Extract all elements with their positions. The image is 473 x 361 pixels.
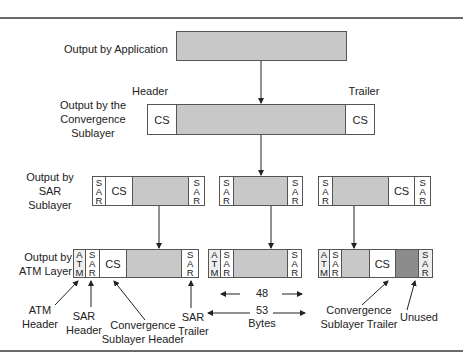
payload-cell [127, 250, 182, 277]
row-label-line: Convergence [48, 112, 138, 126]
atm-header-cell: ATM [319, 250, 330, 277]
cs-header-label: Header [132, 85, 168, 98]
sar-trailer-cell: SAR [288, 250, 301, 277]
sar-trailer-cell: SAR [182, 250, 198, 277]
annotation-cs-header: Convergence Sublayer Header [100, 318, 186, 346]
row-label-sar: Output by SAR Sublayer [18, 170, 82, 212]
sar-header-cell: SAR [220, 177, 234, 205]
payload-cell [342, 250, 370, 277]
sar-header-cell: SAR [93, 177, 106, 205]
sar-header-cell: SAR [319, 177, 333, 205]
atm-cell-last: ATM SAR CS SAR [318, 249, 433, 278]
atm-header-cell: ATM [74, 250, 86, 277]
payload-cell [333, 177, 389, 205]
cs-trailer-cell: CS [389, 177, 416, 205]
annotation-unused: Unused [397, 311, 441, 324]
cs-trailer-label: Trailer [346, 85, 382, 98]
atm-header-cell: ATM [209, 250, 221, 277]
sar-pdu-first: SAR CS SAR [92, 176, 205, 206]
unused-cell [396, 250, 419, 277]
dimension-48: 48 [244, 287, 280, 300]
payload-cell [234, 250, 289, 277]
row-label-convergence: Output by the Convergence Sublayer [48, 98, 138, 140]
row-label-line: Sublayer [18, 198, 82, 212]
row-label-line: Output by [10, 250, 72, 264]
application-payload [177, 32, 346, 60]
sar-trailer-cell: SAR [419, 250, 433, 277]
payload-cell [234, 177, 289, 205]
sar-trailer-cell: SAR [288, 177, 302, 205]
atm-cell-first: ATM SAR CS SAR [73, 249, 199, 278]
cs-header-cell: CS [106, 177, 134, 205]
convergence-sublayer-block: CS CS [147, 104, 375, 135]
cs-header-cell: CS [148, 105, 177, 134]
sar-pdu-last: SAR CS SAR [318, 176, 431, 206]
annotation-atm-header: ATM Header [20, 303, 60, 331]
application-data-block [176, 31, 347, 61]
sar-header-cell: SAR [221, 250, 234, 277]
annotation-sar-header: SAR Header [64, 309, 104, 337]
sar-pdu-middle: SAR SAR [219, 176, 303, 206]
row-label-application: Output by Application [60, 43, 168, 56]
payload-cell [133, 177, 189, 205]
sar-trailer-cell: SAR [415, 177, 430, 205]
annotation-cs-trailer: Convergence Sublayer Trailer [318, 303, 400, 331]
cs-trailer-cell: CS [346, 105, 374, 134]
annotation-sar-trailer: SAR Trailer [178, 310, 208, 338]
row-label-line: Sublayer [48, 126, 138, 140]
sar-header-cell: SAR [86, 250, 100, 277]
cs-payload-cell [177, 105, 347, 134]
row-label-line: SAR [18, 184, 82, 198]
sar-trailer-cell: SAR [189, 177, 204, 205]
cs-trailer-cell: CS [370, 250, 396, 277]
sar-header-cell: SAR [330, 250, 342, 277]
row-label-line: Output by the [48, 98, 138, 112]
atm-cell-middle: ATM SAR SAR [208, 249, 302, 278]
cs-header-cell: CS [100, 250, 128, 277]
row-label-line: ATM Layer [10, 264, 72, 278]
row-label-line: Output by [18, 170, 82, 184]
row-label-atm: Output by ATM Layer [10, 250, 72, 278]
dimension-53: 53 Bytes [238, 304, 286, 330]
